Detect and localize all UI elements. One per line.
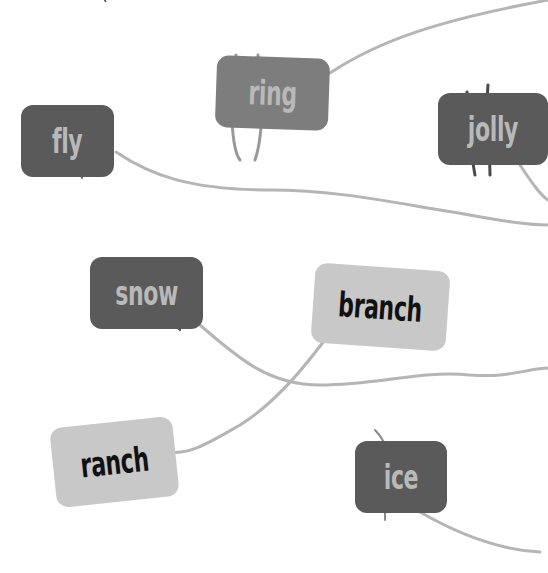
card-word: branch bbox=[337, 284, 423, 330]
card-word: jolly bbox=[468, 109, 518, 149]
word-card-branch[interactable]: branch bbox=[310, 262, 450, 351]
card-word: ring bbox=[248, 72, 298, 114]
word-card-ranch[interactable]: ranch bbox=[49, 416, 180, 508]
card-word: ice bbox=[384, 457, 418, 497]
word-card-fly[interactable]: fly bbox=[21, 105, 114, 177]
card-word: ranch bbox=[78, 439, 150, 486]
card-word: snow bbox=[115, 273, 178, 313]
word-card-ice[interactable]: ice bbox=[355, 441, 447, 513]
word-card-ring[interactable]: ring bbox=[215, 55, 330, 131]
word-card-snow[interactable]: snow bbox=[90, 257, 203, 329]
card-word: fly bbox=[52, 121, 82, 161]
word-map-canvas: fly ring jolly snow branch ranch ice bbox=[0, 0, 548, 573]
word-card-jolly[interactable]: jolly bbox=[438, 93, 548, 165]
